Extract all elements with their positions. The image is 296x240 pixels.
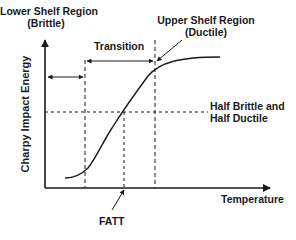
fatt-pointer (112, 190, 124, 210)
energy-curve (65, 57, 220, 178)
fatt-label: FATT (99, 215, 124, 227)
upper-shelf-label: Upper Shelf Region (Ductile) (154, 14, 258, 38)
x-axis-label: Temperature (221, 193, 284, 205)
half-brittle-half-ductile-label: Half Brittle and Half Ductile (210, 100, 285, 124)
y-axis-label: Charpy Impact Energy (19, 56, 31, 173)
lower-shelf-label: Lower Shelf Region (Brittle) (0, 5, 92, 29)
upper-shelf-pointer (157, 40, 182, 61)
transition-label: Transition (94, 40, 144, 52)
